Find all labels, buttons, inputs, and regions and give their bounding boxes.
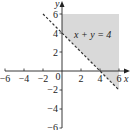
- equation-label: x + y = 4: [73, 29, 111, 40]
- y-tick-label: 6: [53, 9, 58, 20]
- x-tick-label: −4: [19, 73, 30, 84]
- x-tick-label: −6: [0, 73, 10, 84]
- y-tick-label: −6: [47, 122, 58, 130]
- y-tick-label: −2: [47, 84, 58, 95]
- y-tick-label: 4: [53, 28, 58, 39]
- x-tick-label: 6: [117, 73, 122, 84]
- y-tick-label: 2: [53, 47, 58, 58]
- graph-canvas: −6 −4 −2 0 2 4 6 6 4 2 −2 −4 −6 x y x + …: [0, 0, 132, 130]
- x-tick-label: 2: [79, 73, 84, 84]
- y-tick-label: −4: [47, 103, 58, 114]
- x-axis-label: x: [123, 73, 129, 84]
- shaded-region: [62, 14, 119, 90]
- y-axis-arrow-icon: [60, 1, 65, 7]
- origin-label: 0: [56, 71, 61, 82]
- y-axis-label: y: [54, 0, 60, 9]
- x-tick-label: 4: [98, 73, 103, 84]
- x-tick-label: −2: [38, 73, 49, 84]
